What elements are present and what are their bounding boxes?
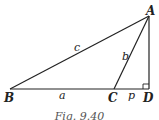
triangle-diagram: A B C D c b a p [0, 0, 159, 120]
segment-CA [114, 16, 149, 89]
label-side-p: p [128, 89, 135, 102]
label-side-a: a [59, 89, 66, 102]
label-vertex-D: D [142, 91, 154, 105]
label-vertex-A: A [145, 4, 155, 18]
right-angle-marker [143, 84, 149, 89]
figure-caption: Fig. 9.40 [0, 110, 159, 120]
label-side-c: c [74, 41, 80, 54]
label-vertex-C: C [108, 91, 118, 105]
label-vertex-B: B [3, 91, 14, 105]
label-side-b: b [122, 50, 129, 63]
